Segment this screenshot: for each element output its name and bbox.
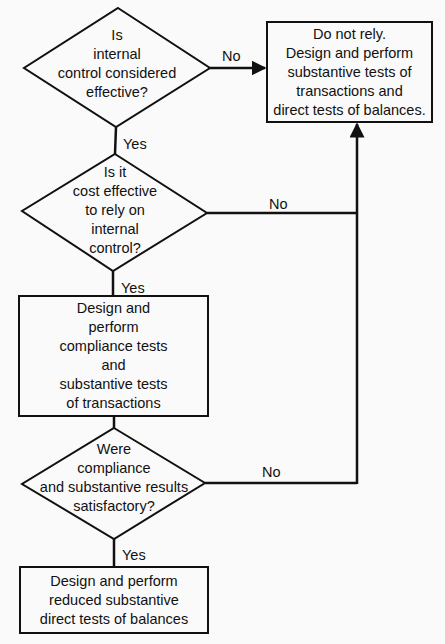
edge-label-results-no: No <box>262 464 281 480</box>
process-compliance-text: Design and perform compliance tests and … <box>19 299 208 413</box>
process-reduced-text: Design and perform reduced substantive d… <box>20 572 208 629</box>
decision-effective-text: Is internal control considered effective… <box>44 26 190 102</box>
edge-effective-yes <box>115 127 116 154</box>
decision-cost-text: Is it cost effective to rely on internal… <box>44 163 186 258</box>
edge-label-effective-yes: Yes <box>123 136 147 152</box>
decision-results-text: Were compliance and substantive results … <box>24 440 204 516</box>
process-do-not-rely-text: Do not rely. Design and perform substant… <box>267 25 432 120</box>
edge-label-cost-no: No <box>269 196 288 212</box>
edge-label-effective-no: No <box>222 48 241 64</box>
edge-label-results-yes: Yes <box>122 547 146 563</box>
edge-label-cost-yes: Yes <box>121 280 145 296</box>
